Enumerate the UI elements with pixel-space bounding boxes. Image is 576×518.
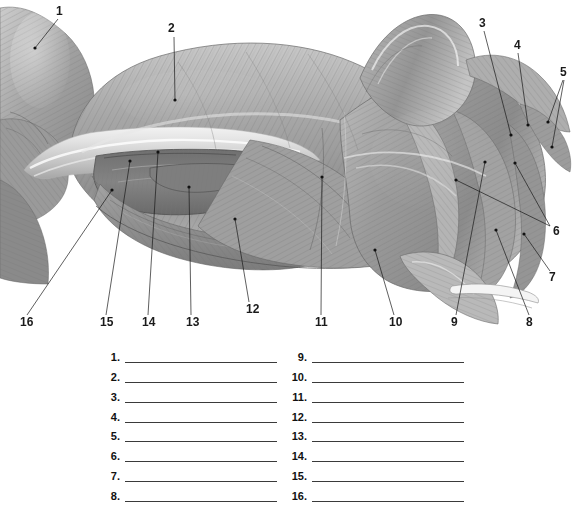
answer-row: 9.: [287, 344, 464, 364]
answer-row: 15.: [287, 463, 464, 483]
answer-row: 13.: [287, 424, 464, 444]
leader-dot-2: [173, 98, 176, 101]
answer-row: 16.: [287, 483, 464, 503]
answer-number: 11.: [287, 392, 307, 404]
answer-number: 4.: [100, 412, 120, 424]
answer-column-left: 1.2.3.4.5.6.7.8.: [100, 344, 277, 503]
answer-row: 3.: [100, 384, 277, 404]
answer-blank-line[interactable]: [312, 401, 464, 403]
answer-row: 8.: [100, 483, 277, 503]
answer-number: 12.: [287, 412, 307, 424]
answer-blank-line[interactable]: [125, 460, 277, 462]
callout-number-12: 12: [246, 303, 259, 315]
leader-dot-9: [483, 160, 486, 163]
answer-blank-line[interactable]: [125, 361, 277, 363]
answer-column-right: 9.10.11.12.13.14.15.16.: [287, 344, 464, 503]
callout-number-7: 7: [549, 271, 556, 283]
answer-number: 8.: [100, 491, 120, 503]
callout-number-4: 4: [514, 39, 521, 51]
leader-dot-3: [509, 133, 512, 136]
callout-number-10: 10: [389, 316, 402, 328]
answer-number: 15.: [287, 471, 307, 483]
answer-row: 12.: [287, 404, 464, 424]
callout-number-8: 8: [526, 316, 533, 328]
answer-number: 7.: [100, 471, 120, 483]
answer-blank-line[interactable]: [312, 500, 464, 502]
callout-number-1: 1: [56, 5, 63, 17]
callout-number-3: 3: [479, 17, 486, 29]
answer-number: 6.: [100, 451, 120, 463]
answer-number: 14.: [287, 451, 307, 463]
answer-row: 5.: [100, 424, 277, 444]
callout-number-2: 2: [168, 22, 175, 34]
leader-dot-7: [522, 232, 525, 235]
worksheet-page: 12345678910111213141516 1.2.3.4.5.6.7.8.…: [0, 0, 576, 518]
callout-number-11: 11: [315, 316, 328, 328]
anatomy-illustration: [0, 0, 576, 340]
callout-number-13: 13: [186, 316, 199, 328]
leader-dot-5b: [550, 145, 553, 148]
answer-row: 1.: [100, 344, 277, 364]
leader-dot-4: [526, 123, 529, 126]
answer-row: 10.: [287, 364, 464, 384]
answer-number: 5.: [100, 431, 120, 443]
answer-blank-line[interactable]: [312, 460, 464, 462]
leader-dot-8: [494, 228, 497, 231]
answer-blank-line[interactable]: [312, 480, 464, 482]
answer-blank-line[interactable]: [125, 381, 277, 383]
leader-dot-12: [233, 217, 236, 220]
leader-dot-6b: [513, 161, 516, 164]
answer-blank-line[interactable]: [312, 381, 464, 383]
answer-row: 4.: [100, 404, 277, 424]
answer-row: 2.: [100, 364, 277, 384]
callout-number-9: 9: [451, 316, 458, 328]
anatomy-illustration-svg: [0, 0, 576, 340]
leader-dot-15: [128, 159, 131, 162]
answer-number: 10.: [287, 372, 307, 384]
leader-dot-10: [373, 248, 376, 251]
leader-dot-1: [33, 46, 36, 49]
answer-row: 14.: [287, 443, 464, 463]
leader-dot-13: [187, 185, 190, 188]
answer-blank-line[interactable]: [125, 440, 277, 442]
answer-row: 7.: [100, 463, 277, 483]
leader-dot-16: [110, 188, 113, 191]
answer-number: 3.: [100, 392, 120, 404]
callout-number-14: 14: [142, 316, 155, 328]
answer-number: 2.: [100, 372, 120, 384]
leader-dot-11: [320, 175, 323, 178]
answer-number: 9.: [287, 352, 307, 364]
leader-dot-5: [546, 120, 549, 123]
leader-dot-14: [156, 150, 159, 153]
answer-blank-line[interactable]: [312, 361, 464, 363]
callout-number-16: 16: [20, 316, 33, 328]
answer-row: 11.: [287, 384, 464, 404]
answer-number: 16.: [287, 491, 307, 503]
answer-row: 6.: [100, 443, 277, 463]
answer-number: 1.: [100, 352, 120, 364]
answer-key: 1.2.3.4.5.6.7.8. 9.10.11.12.13.14.15.16.: [0, 344, 576, 518]
answer-blank-line[interactable]: [125, 421, 277, 423]
callout-number-5: 5: [560, 66, 567, 78]
answer-number: 13.: [287, 431, 307, 443]
answer-blank-line[interactable]: [125, 500, 277, 502]
answer-blank-line[interactable]: [312, 440, 464, 442]
callout-number-6: 6: [553, 225, 560, 237]
answer-blank-line[interactable]: [125, 401, 277, 403]
leader-dot-6: [454, 178, 457, 181]
answer-blank-line[interactable]: [125, 480, 277, 482]
answer-blank-line[interactable]: [312, 421, 464, 423]
callout-number-15: 15: [100, 316, 113, 328]
